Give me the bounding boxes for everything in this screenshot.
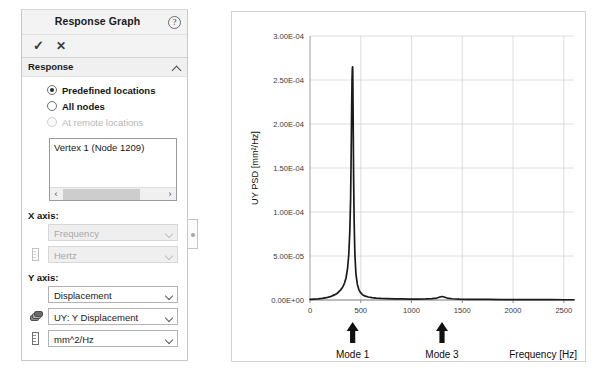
radio-indicator	[47, 117, 57, 127]
y-axis-label: Y axis:	[28, 272, 187, 283]
panel-header: Response Graph ?	[22, 10, 187, 35]
chevron-down-icon[interactable]	[166, 293, 172, 299]
y-axis-component-select[interactable]: UY: Y Displacement	[48, 308, 178, 325]
ruler-icon	[28, 247, 45, 262]
response-graph-panel: Response Graph ? ✓ ✕ Response Predefined…	[21, 9, 188, 361]
x-tick-label: 500	[354, 306, 367, 315]
horizontal-scrollbar[interactable]: ‹ ›	[50, 187, 176, 200]
scroll-right-icon[interactable]: ›	[164, 188, 176, 200]
y-axis-title: UY PSD [mm²/Hz]	[250, 131, 260, 205]
plot-area: 0.00E+005.00E-051.00E-041.50E-042.00E-04…	[232, 12, 585, 361]
radio-label: Predefined locations	[62, 85, 155, 96]
x-axis-unit-select: Hertz	[48, 246, 178, 263]
x-axis-title: Frequency [Hz]	[509, 349, 577, 360]
stack-icon	[28, 309, 45, 324]
x-axis-label: X axis:	[28, 210, 187, 221]
y-tick-label: 0.00E+00	[271, 296, 304, 305]
help-circle-icon[interactable]: ?	[168, 16, 181, 29]
up-arrow-icon	[436, 322, 448, 343]
y-axis-unit-value: mm^2/Hz	[54, 334, 94, 345]
chevron-down-icon	[166, 253, 172, 259]
y-tick-label: 1.00E-04	[273, 208, 304, 217]
cancel-button[interactable]: ✕	[52, 38, 69, 55]
chevron-down-icon[interactable]	[166, 315, 172, 321]
x-axis-quantity-select: Frequency	[48, 224, 178, 241]
x-axis-quantity-row: Frequency	[28, 224, 178, 241]
panel-toolbar: ✓ ✕	[22, 35, 187, 58]
radio-at-remote-locations: At remote locations	[47, 114, 187, 130]
y-axis-quantity-row[interactable]: Displacement	[28, 286, 178, 303]
chevron-up-icon[interactable]	[173, 65, 180, 72]
scroll-left-icon[interactable]: ‹	[50, 188, 62, 200]
y-tick-label: 1.50E-04	[273, 164, 304, 173]
annotation-label: Mode 3	[425, 349, 459, 360]
y-axis-component-value: UY: Y Displacement	[54, 312, 138, 323]
x-axis-unit-row: Hertz	[28, 246, 178, 263]
response-section-title: Response	[28, 61, 73, 72]
y-axis-unit-row[interactable]: mm^2/Hz	[28, 330, 178, 347]
x-tick-label: 1500	[454, 306, 471, 315]
page-title: Response Graph	[22, 15, 187, 27]
series-line	[310, 67, 574, 300]
x-axis-unit-value: Hertz	[54, 250, 77, 261]
annotation-label: Mode 1	[336, 349, 370, 360]
panel-collapse-tab[interactable]	[188, 219, 198, 249]
panel-body: Predefined locations All nodes At remote…	[22, 82, 187, 347]
ruler-icon	[28, 331, 45, 346]
x-tick-label: 2500	[555, 306, 572, 315]
x-tick-label: 0	[308, 306, 312, 315]
screen-root: Response Graph ? ✓ ✕ Response Predefined…	[0, 0, 603, 390]
accept-button[interactable]: ✓	[30, 38, 47, 55]
x-tick-label: 1000	[403, 306, 420, 315]
y-tick-label: 3.00E-04	[273, 32, 304, 41]
y-tick-label: 2.50E-04	[273, 76, 304, 85]
radio-predefined-locations[interactable]: Predefined locations	[47, 82, 187, 98]
radio-indicator[interactable]	[47, 101, 57, 111]
y-axis-quantity-select[interactable]: Displacement	[48, 286, 178, 303]
response-chart-panel: 0.00E+005.00E-051.00E-041.50E-042.00E-04…	[231, 11, 586, 362]
chevron-down-icon	[166, 231, 172, 237]
y-tick-label: 5.00E-05	[273, 252, 304, 261]
psd-line-chart: 0.00E+005.00E-051.00E-041.50E-042.00E-04…	[232, 12, 587, 363]
radio-indicator[interactable]	[47, 85, 57, 95]
x-axis-quantity-value: Frequency	[54, 228, 99, 239]
scrollbar-thumb[interactable]	[63, 189, 140, 200]
y-axis-unit-select[interactable]: mm^2/Hz	[48, 330, 178, 347]
response-section-header[interactable]: Response	[22, 58, 187, 77]
up-arrow-icon	[347, 322, 359, 343]
radio-label: All nodes	[62, 101, 105, 112]
radio-label: At remote locations	[62, 117, 143, 128]
radio-all-nodes[interactable]: All nodes	[47, 98, 187, 114]
y-axis-component-row[interactable]: UY: Y Displacement	[28, 308, 178, 325]
list-item[interactable]: Vertex 1 (Node 1209)	[50, 139, 176, 153]
location-listbox[interactable]: Vertex 1 (Node 1209) ‹ ›	[49, 138, 177, 201]
x-tick-label: 2000	[505, 306, 522, 315]
chevron-down-icon[interactable]	[166, 337, 172, 343]
y-axis-quantity-value: Displacement	[54, 290, 112, 301]
y-tick-label: 2.00E-04	[273, 120, 304, 129]
